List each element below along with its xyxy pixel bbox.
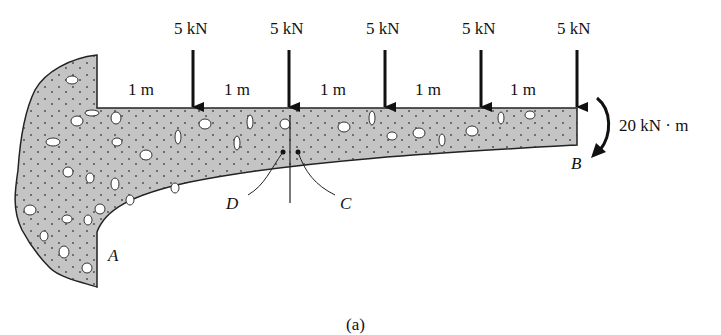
span-label-2: 1 m: [224, 80, 250, 99]
span-label-1: 1 m: [128, 80, 154, 99]
figure-caption: (a): [346, 315, 365, 334]
point-label-d: D: [225, 194, 239, 213]
load-label-5: 5 kN: [557, 19, 591, 38]
point-label-a: A: [107, 246, 119, 265]
beam-body: [15, 55, 577, 287]
point-label-c: C: [340, 194, 352, 213]
span-label-3: 1 m: [320, 80, 346, 99]
moment-arrow-icon: [591, 98, 609, 158]
span-label-5: 1 m: [510, 80, 536, 99]
load-label-2: 5 kN: [270, 19, 304, 38]
cantilever-beam-diagram: 5 kN 5 kN 5 kN 5 kN 5 kN 1 m 1 m 1 m 1 m…: [0, 0, 721, 335]
load-label-4: 5 kN: [462, 19, 496, 38]
load-label-1: 5 kN: [174, 19, 208, 38]
moment-label: 20 kN · m: [619, 116, 688, 135]
span-label-4: 1 m: [415, 80, 441, 99]
load-label-3: 5 kN: [366, 19, 400, 38]
point-label-b: B: [571, 154, 582, 173]
